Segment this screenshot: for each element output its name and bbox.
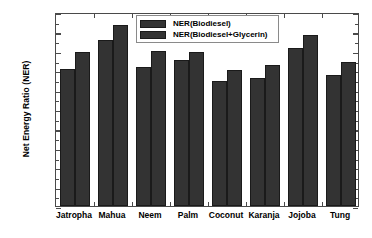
bar xyxy=(288,48,303,206)
x-category-label: Jatropha xyxy=(56,210,92,220)
bar xyxy=(265,65,280,206)
x-category-label: Coconut xyxy=(209,210,243,220)
bar xyxy=(303,35,318,206)
bar xyxy=(60,69,75,206)
y-axis-title: Net Energy Ratio (NER) xyxy=(21,29,31,189)
chart-legend: NER(Biodiesel) NER(Biodiesel+Glycerin) xyxy=(136,15,279,43)
x-category-label: Karanja xyxy=(248,210,279,220)
bar xyxy=(250,78,265,206)
bar xyxy=(174,60,189,206)
legend-swatch-icon xyxy=(140,20,166,28)
x-category-label: Neem xyxy=(138,210,161,220)
bar xyxy=(341,62,356,206)
bar xyxy=(98,40,113,206)
bar xyxy=(136,67,151,206)
bar-chart: Net Energy Ratio (NER) 0.00.20.40.60.81.… xyxy=(0,0,372,238)
x-category-label: Tung xyxy=(330,210,350,220)
bar xyxy=(113,25,128,206)
x-category-label: Palm xyxy=(178,210,198,220)
x-category-label: Mahua xyxy=(99,210,126,220)
bar xyxy=(189,52,204,206)
legend-item-label: NER(Biodiesel) xyxy=(173,19,231,28)
bar xyxy=(227,70,242,206)
legend-item-label: NER(Biodiesel+Glycerin) xyxy=(173,30,267,39)
bar xyxy=(326,75,341,206)
bar xyxy=(151,51,166,206)
y-axis-tick xyxy=(56,208,61,209)
legend-item: NER(Biodiesel+Glycerin) xyxy=(140,29,275,40)
legend-item: NER(Biodiesel) xyxy=(140,18,275,29)
legend-swatch-icon xyxy=(140,31,166,39)
x-category-label: Jojoba xyxy=(288,210,315,220)
bar xyxy=(75,52,90,206)
y-axis-tick xyxy=(353,208,358,209)
bar xyxy=(212,81,227,206)
